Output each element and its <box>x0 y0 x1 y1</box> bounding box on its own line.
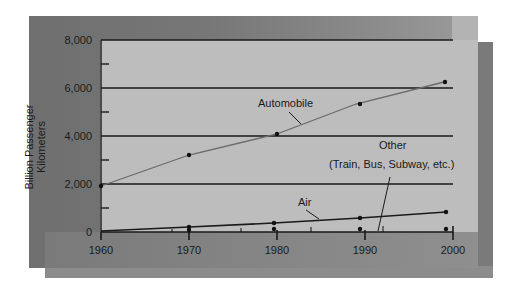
x-tick-2000: 2000 <box>433 244 473 256</box>
y-tick-8000: 8,000 <box>42 34 92 46</box>
y-tick-6000: 6,000 <box>42 82 92 94</box>
y-tick-4000: 4,000 <box>42 130 92 142</box>
automobile-label: Automobile <box>258 97 313 109</box>
air-label: Air <box>298 196 311 208</box>
x-tick-1980: 1980 <box>257 244 297 256</box>
other-label-line2: (Train, Bus, Subway, etc.) <box>329 158 454 170</box>
leader-lines <box>289 112 390 231</box>
y-tick-2000: 2,000 <box>42 178 92 190</box>
other-label-line1: Other <box>379 139 407 151</box>
x-tick-1990: 1990 <box>345 244 385 256</box>
x-tick-1970: 1970 <box>169 244 209 256</box>
y-tick-0: 0 <box>42 226 92 238</box>
x-tick-1960: 1960 <box>81 244 121 256</box>
y-axis-label-line1: Billion Passenger <box>23 92 35 202</box>
